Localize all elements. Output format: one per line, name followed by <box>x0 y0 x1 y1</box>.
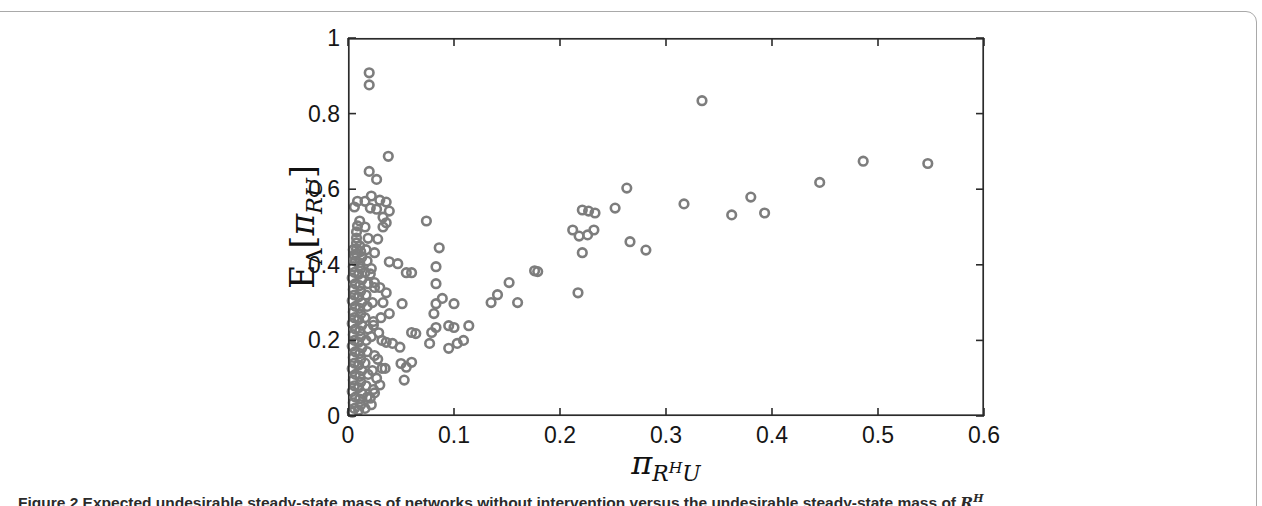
x-tick-label: 0.6 <box>968 424 1000 447</box>
data-point <box>350 203 359 212</box>
data-point <box>747 193 756 202</box>
y-tick-label: 0.2 <box>280 329 340 352</box>
x-tick-label: 0.1 <box>438 424 470 447</box>
data-point <box>372 374 381 383</box>
ylab-pi: π <box>283 214 322 236</box>
data-point <box>590 226 599 235</box>
data-point <box>365 167 374 176</box>
data-point <box>642 246 651 255</box>
ylab-open-bracket: [ <box>283 236 322 249</box>
data-point <box>591 209 600 218</box>
y-tick-label: 1 <box>280 27 340 50</box>
data-point <box>432 323 441 332</box>
y-tick-label: 0 <box>280 405 340 428</box>
data-point <box>623 184 632 193</box>
data-point <box>465 321 474 330</box>
data-point <box>924 159 933 168</box>
data-point <box>362 291 371 300</box>
data-point <box>626 237 635 246</box>
data-point <box>727 211 736 220</box>
xlab-sub-R: R <box>652 461 668 486</box>
data-point <box>365 69 374 78</box>
data-point <box>578 248 587 257</box>
data-point <box>362 245 371 254</box>
x-axis-label: πRHU <box>631 444 700 486</box>
caption-text: Expected undesirable steady-state mass o… <box>78 494 960 506</box>
data-point <box>377 313 386 322</box>
caption-label: Figure 2 <box>18 494 78 506</box>
data-point <box>432 262 441 271</box>
x-tick-label: 0.3 <box>650 424 682 447</box>
data-point <box>459 336 468 345</box>
data-point <box>425 339 434 348</box>
scatter-chart: EΛ[πRU] πRHU Figure 2 Expected undesirab… <box>0 0 1262 506</box>
xlab-sub: RHU <box>652 461 700 486</box>
data-point <box>493 290 502 299</box>
data-point <box>372 175 381 184</box>
data-point <box>385 258 394 267</box>
y-tick-label: 0.6 <box>280 178 340 201</box>
data-point <box>760 209 769 218</box>
data-point <box>611 204 620 213</box>
data-point <box>384 152 393 161</box>
data-point <box>394 259 403 268</box>
data-point <box>400 376 409 385</box>
xlab-sub-sup-H: H <box>669 458 683 477</box>
data-point <box>859 157 868 166</box>
x-tick-label: 0.2 <box>544 424 576 447</box>
data-point <box>361 223 370 232</box>
data-point <box>396 343 405 352</box>
data-point <box>815 178 824 187</box>
x-tick-label: 0.4 <box>756 424 788 447</box>
data-point <box>382 198 391 207</box>
data-point <box>680 200 689 209</box>
data-point <box>422 217 431 226</box>
x-tick-label: 0 <box>342 424 355 447</box>
data-point <box>398 299 407 308</box>
data-point <box>575 232 584 241</box>
plot-area <box>348 38 984 416</box>
data-point <box>361 359 370 368</box>
caption-math: R <box>960 493 973 506</box>
data-point <box>450 299 459 308</box>
data-point <box>505 278 514 287</box>
data-point <box>444 344 453 353</box>
data-point <box>430 309 439 318</box>
data-point <box>374 329 383 338</box>
data-point <box>379 298 388 307</box>
data-point <box>367 400 376 409</box>
data-point <box>373 235 382 244</box>
xlab-sub-U: U <box>682 461 700 486</box>
data-point <box>487 298 496 307</box>
caption-math-sup: H <box>973 492 983 505</box>
data-point <box>698 96 707 105</box>
axes-box <box>349 39 983 415</box>
y-tick-label: 0.4 <box>280 253 340 276</box>
data-point <box>364 234 373 243</box>
data-point <box>365 81 374 90</box>
data-point <box>513 298 522 307</box>
data-point <box>435 244 444 253</box>
data-point <box>432 299 441 308</box>
data-point <box>368 298 377 307</box>
data-point <box>372 205 381 214</box>
data-point <box>407 358 416 367</box>
y-tick-label: 0.8 <box>280 102 340 125</box>
figure-caption: Figure 2 Expected undesirable steady-sta… <box>18 489 1240 506</box>
data-point <box>432 279 441 288</box>
x-tick-label: 0.5 <box>862 424 894 447</box>
data-point <box>574 289 583 298</box>
xlab-pi: π <box>631 444 652 482</box>
